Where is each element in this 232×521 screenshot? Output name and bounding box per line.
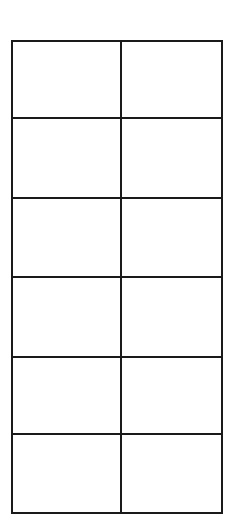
grid-cell-r6-c1 (13, 435, 120, 512)
grid-cell-r3-c1 (13, 199, 120, 276)
grid-cell-r1-c1 (13, 42, 120, 117)
grid-cell-r3-c2 (122, 199, 221, 276)
grid-cell-r2-c2 (122, 119, 221, 197)
empty-grid-table (11, 40, 223, 514)
grid-cell-r4-c2 (122, 278, 221, 356)
grid-cell-r5-c1 (13, 358, 120, 433)
grid-cell-r1-c2 (122, 42, 221, 117)
grid-cell-r2-c1 (13, 119, 120, 197)
grid-cell-r6-c2 (122, 435, 221, 512)
grid-cell-r4-c1 (13, 278, 120, 356)
grid-cell-r5-c2 (122, 358, 221, 433)
